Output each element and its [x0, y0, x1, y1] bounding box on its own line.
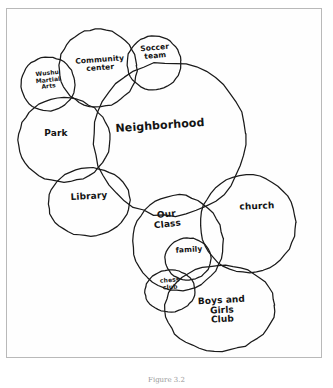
circle-church	[201, 175, 296, 273]
circles-drawing	[0, 0, 333, 388]
circle-boys-and-girls-club	[165, 265, 275, 351]
circle-library	[48, 168, 130, 237]
circle-stroke-group	[18, 29, 296, 352]
circle-wushu-martial-arts	[21, 57, 75, 111]
diagram-canvas: Wushu Martial ArtsCommunity centerSoccer…	[0, 0, 333, 388]
figure-caption: Figure 3.2	[0, 376, 333, 388]
circle-park	[18, 97, 110, 182]
circle-community-center	[59, 29, 137, 107]
circle-neighborhood	[93, 63, 246, 217]
circle-our-class	[133, 194, 224, 290]
